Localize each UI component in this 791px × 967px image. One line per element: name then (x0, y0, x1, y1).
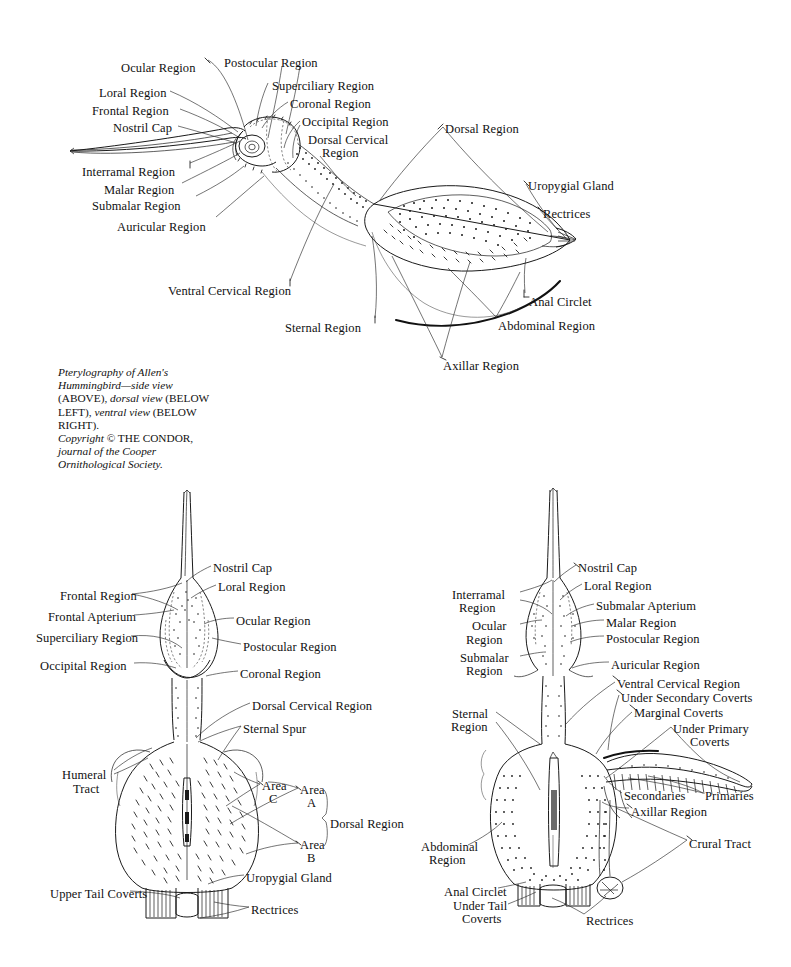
label-s-malar: Malar Region (104, 184, 174, 198)
caption-copyright-word: Copyright (58, 432, 104, 444)
caption-line-2: Hummingbird—side view (58, 379, 173, 391)
label-s-anal-circlet: Anal Circlet (529, 296, 592, 310)
label-d-ocular: Ocular Region (236, 615, 311, 629)
label-d-dorsal-cerv: Dorsal Cervical Region (252, 700, 372, 714)
label-v-auricular: Auricular Region (611, 659, 700, 673)
label-d-humeral-1: Humeral (62, 769, 106, 783)
caption-line-3b: dorsal view (110, 392, 162, 404)
label-s-nostril: Nostril Cap (113, 122, 172, 136)
label-s-auricular: Auricular Region (117, 221, 206, 235)
label-v-submalar-apt: Submalar Apterium (596, 600, 696, 614)
caption-line-3c: (BELOW (163, 392, 210, 404)
label-v-ocular-2: Region (466, 634, 503, 648)
label-d-occipital: Occipital Region (40, 660, 127, 674)
label-s-occipital: Occipital Region (302, 116, 389, 130)
label-v-rectrices: Rectrices (586, 915, 633, 929)
label-v-primaries: Primaries (705, 790, 754, 804)
label-v-abdominal-2: Region (429, 854, 466, 868)
label-s-abdominal: Abdominal Region (498, 320, 595, 334)
label-s-coronal: Coronal Region (290, 98, 371, 112)
label-s-postocular: Postocular Region (224, 57, 318, 71)
label-v-under-tail-2: Coverts (462, 913, 502, 927)
caption-line-4c: (BELOW (150, 406, 197, 418)
label-s-submalar: Submalar Region (92, 200, 181, 214)
label-d-superciliary: Superciliary Region (36, 632, 138, 646)
label-s-loral: Loral Region (99, 87, 167, 101)
label-v-under-sec-cov: Under Secondary Coverts (621, 692, 752, 706)
label-d-loral: Loral Region (218, 581, 286, 595)
label-v-malar: Malar Region (606, 617, 676, 631)
label-v-axillar: Axillar Region (631, 806, 707, 820)
caption-line-8: Ornithological Society. (58, 458, 163, 470)
label-d-dorsal-region: Dorsal Region (330, 818, 404, 832)
label-d-postocular: Postocular Region (243, 641, 337, 655)
label-d-area-c-2: C (269, 793, 277, 807)
label-s-dorsal-cerv-2: Region (322, 147, 359, 161)
label-d-nostril: Nostril Cap (213, 562, 272, 576)
label-s-rectrices: Rectrices (543, 208, 590, 222)
label-v-loral: Loral Region (584, 580, 652, 594)
label-d-coronal: Coronal Region (240, 668, 321, 682)
label-s-sternal: Sternal Region (285, 322, 361, 336)
caption-line-1: Pterylography of Allen's (58, 366, 168, 378)
caption-line-4a: LEFT), (58, 406, 94, 418)
label-v-anal-circlet: Anal Circlet (444, 886, 507, 900)
label-s-interramal: Interramal Region (82, 166, 175, 180)
label-d-humeral-2: Tract (73, 783, 99, 797)
label-d-frontal-reg: Frontal Region (60, 590, 137, 604)
label-d-sternal-spur: Sternal Spur (243, 723, 306, 737)
label-d-frontal-apt: Frontal Apterium (48, 611, 136, 625)
label-v-ventral-cerv: Ventral Cervical Region (617, 678, 740, 692)
label-v-interramal-2: Region (459, 602, 496, 616)
label-s-dorsal-region: Dorsal Region (445, 123, 519, 137)
label-s-ocular: Ocular Region (121, 62, 196, 76)
figure-caption: Pterylography of Allen's Hummingbird—sid… (58, 366, 273, 472)
label-s-frontal: Frontal Region (92, 105, 169, 119)
label-v-postocular: Postocular Region (606, 633, 700, 647)
label-s-ventral-cerv: Ventral Cervical Region (168, 285, 291, 299)
caption-line-5: RIGHT). (58, 419, 99, 431)
label-v-secondaries: Secondaries (624, 790, 686, 804)
caption-copyright-rest: © THE CONDOR, (104, 432, 193, 444)
label-v-sternal-2: Region (451, 721, 488, 735)
label-d-area-a-2: A (307, 797, 316, 811)
label-d-uropygial: Uropygial Gland (246, 872, 332, 886)
caption-line-7: journal of the Cooper (58, 445, 156, 457)
label-v-nostril: Nostril Cap (578, 562, 637, 576)
label-d-rectrices: Rectrices (251, 904, 298, 918)
label-v-under-prim-2: Coverts (690, 736, 730, 750)
label-d-area-b-2: B (307, 852, 315, 866)
label-d-upper-tail: Upper Tail Coverts (50, 888, 147, 902)
label-v-crural: Crural Tract (689, 838, 751, 852)
label-s-uropygial: Uropygial Gland (528, 180, 614, 194)
label-v-submalar-2: Region (466, 665, 503, 679)
caption-line-4b: ventral view (94, 406, 150, 418)
caption-line-3a: (ABOVE), (58, 392, 110, 404)
label-v-ocular-1: Ocular (472, 620, 507, 634)
label-s-superciliary: Superciliary Region (272, 80, 374, 94)
illustration-page: Pterylography of Allen's Hummingbird—sid… (0, 0, 791, 967)
label-v-marginal-cov: Marginal Coverts (634, 707, 723, 721)
label-s-axillar: Axillar Region (443, 360, 519, 374)
